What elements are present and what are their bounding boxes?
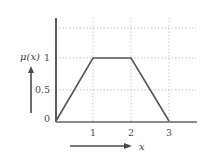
y-tick-label-0point5: 0.5 — [35, 84, 50, 95]
trapezoidal-membership-plot: 1 0.5 0 1 2 3 μ(x) x — [0, 0, 208, 158]
y-tick-label-0: 0 — [44, 113, 50, 124]
x-tick-label-1: 1 — [90, 127, 96, 138]
x-tick-label-2: 2 — [128, 127, 134, 138]
membership-function-figure: 1 0.5 0 1 2 3 μ(x) x — [0, 0, 208, 158]
y-axis-title: μ(x) — [20, 51, 40, 62]
x-tick-label-3: 3 — [166, 127, 172, 138]
x-axis-title: x — [139, 141, 145, 152]
y-tick-label-1: 1 — [44, 52, 50, 63]
